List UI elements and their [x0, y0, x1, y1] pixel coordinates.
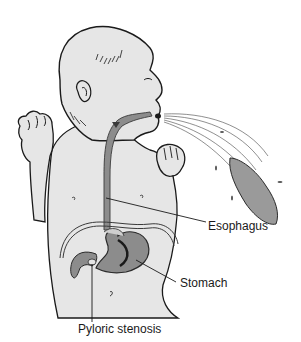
label-stomach: Stomach [180, 276, 227, 290]
label-esophagus: Esophagus [208, 219, 268, 233]
illustration: Esophagus Stomach Pyloric stenosis [0, 0, 301, 342]
label-pyloric-stenosis: Pyloric stenosis [78, 322, 161, 336]
head [59, 27, 162, 141]
infant-figure [0, 0, 301, 342]
vomit-mass [230, 158, 278, 224]
